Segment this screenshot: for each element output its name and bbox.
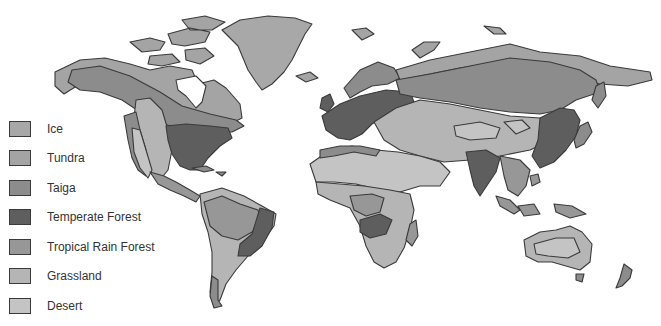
east-asia-temperate-forest (532, 108, 580, 168)
swatch-temperate-forest (9, 209, 31, 225)
greenland (222, 16, 312, 90)
india (466, 150, 500, 196)
swatch-grassland (9, 268, 31, 284)
legend-label: Taiga (47, 181, 76, 195)
legend-item-taiga: Taiga (9, 173, 179, 203)
southeast-asia (500, 156, 530, 196)
new-zealand (616, 264, 632, 288)
swatch-ice (9, 121, 31, 137)
legend-item-ice: Ice (9, 114, 179, 144)
swatch-tropical-rain-forest (9, 239, 31, 255)
swatch-tundra (9, 150, 31, 166)
caribbean (192, 166, 226, 176)
tasmania (576, 274, 584, 282)
arctic-islands (130, 16, 225, 66)
legend-label: Tundra (47, 151, 85, 165)
legend-item-tundra: Tundra (9, 144, 179, 174)
legend-label: Ice (47, 122, 63, 136)
legend-item-desert: Desert (9, 291, 179, 321)
legend-item-grassland: Grassland (9, 262, 179, 292)
swatch-desert (9, 298, 31, 314)
legend: Ice Tundra Taiga Temperate Forest Tropic… (9, 114, 179, 321)
legend-item-temperate-forest: Temperate Forest (9, 203, 179, 233)
iceland (296, 72, 318, 82)
swatch-taiga (9, 180, 31, 196)
legend-label: Tropical Rain Forest (47, 240, 155, 254)
legend-label: Desert (47, 299, 82, 313)
legend-label: Grassland (47, 269, 102, 283)
legend-item-tropical-rain-forest: Tropical Rain Forest (9, 232, 179, 262)
legend-label: Temperate Forest (47, 210, 141, 224)
